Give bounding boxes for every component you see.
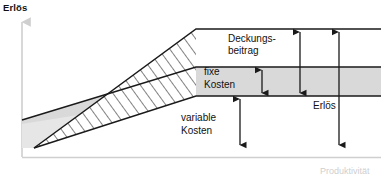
diagram-canvas <box>0 0 381 175</box>
label-fixe-kosten-line2: Kosten <box>204 79 235 92</box>
label-variable-kosten-line1: variable <box>181 112 216 125</box>
variable-cost-region-right <box>196 96 381 148</box>
label-deckungsbeitrag-line1: Deckungs- <box>228 33 276 46</box>
label-variable-kosten-line2: Kosten <box>181 125 212 138</box>
revenue-cost-diagram: Erlös Deckungs- beitrag fixe Kosten vari… <box>0 0 381 175</box>
label-erloes-arrow: Erlös <box>313 100 336 113</box>
contribution-band-fill <box>196 29 381 67</box>
page-title: Erlös <box>3 2 27 13</box>
label-fixe-kosten-line1: fixe <box>204 66 220 79</box>
label-x-axis: Produktivität <box>320 166 370 175</box>
label-deckungsbeitrag-line2: beitrag <box>228 45 259 58</box>
